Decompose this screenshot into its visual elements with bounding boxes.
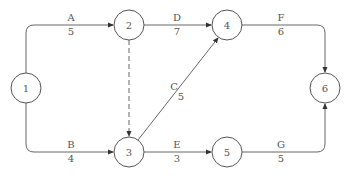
node-2: 2 <box>114 10 144 40</box>
edge-e-duration: 3 <box>174 153 180 164</box>
node-5: 5 <box>212 137 242 167</box>
edge-b-duration: 4 <box>68 153 74 164</box>
node-1-label: 1 <box>23 83 29 94</box>
node-6-label: 6 <box>322 83 328 94</box>
edge-f-duration: 6 <box>278 26 284 37</box>
edge-d-activity: D <box>173 12 181 23</box>
node-2-label: 2 <box>126 20 132 31</box>
edge-d-duration: 7 <box>174 26 180 37</box>
edge-b-activity: B <box>67 139 74 150</box>
network-diagram: A 5 B 4 C 5 D 7 E 3 F 6 G 5 1 2 3 4 5 6 <box>0 0 348 180</box>
node-1: 1 <box>11 73 41 103</box>
node-3: 3 <box>114 137 144 167</box>
node-4-label: 4 <box>224 20 230 31</box>
node-5-label: 5 <box>224 147 230 158</box>
edge-c-duration: 5 <box>178 91 184 102</box>
edge-g-duration: 5 <box>278 153 284 164</box>
node-4: 4 <box>212 10 242 40</box>
edge-e-activity: E <box>173 139 180 150</box>
node-3-label: 3 <box>126 147 132 158</box>
node-6: 6 <box>310 73 340 103</box>
edge-a-duration: 5 <box>68 26 74 37</box>
edge-f-activity: F <box>278 12 285 23</box>
edge-g-activity: G <box>277 139 285 150</box>
edge-a-activity: A <box>66 12 75 23</box>
edge-c <box>138 38 218 140</box>
